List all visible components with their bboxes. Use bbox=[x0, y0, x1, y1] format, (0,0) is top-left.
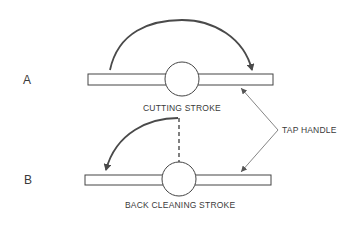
leader-line-a bbox=[241, 88, 278, 130]
callout-tap-handle: TAP HANDLE bbox=[282, 126, 337, 135]
row-a-figure bbox=[88, 20, 273, 96]
tap-hub-b bbox=[162, 162, 196, 196]
tap-handle-callout-leaders bbox=[241, 88, 278, 172]
leader-line-b bbox=[241, 130, 278, 172]
back-cleaning-stroke-arrow bbox=[106, 118, 178, 170]
caption-back-cleaning-stroke: BACK CLEANING STROKE bbox=[125, 201, 235, 210]
row-label-b: B bbox=[24, 174, 32, 186]
tap-hub-a bbox=[165, 62, 199, 96]
caption-cutting-stroke: CUTTING STROKE bbox=[143, 104, 221, 113]
row-label-a: A bbox=[23, 74, 31, 86]
row-b-figure bbox=[85, 118, 271, 196]
